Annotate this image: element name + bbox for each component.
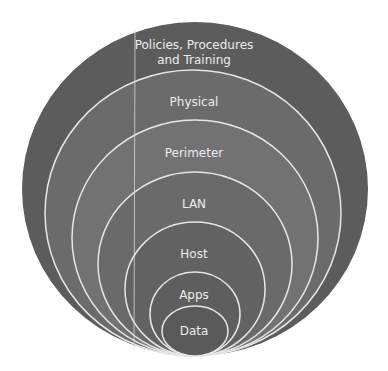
label-data: Data: [0, 324, 388, 339]
label-apps: Apps: [0, 288, 388, 303]
label-lan: LAN: [0, 197, 388, 212]
label-policies-line2: and Training: [0, 53, 388, 68]
label-host: Host: [0, 247, 388, 262]
label-policies-line1: Policies, Procedures: [0, 38, 388, 53]
label-perimeter: Perimeter: [0, 146, 388, 161]
label-physical: Physical: [0, 95, 388, 110]
